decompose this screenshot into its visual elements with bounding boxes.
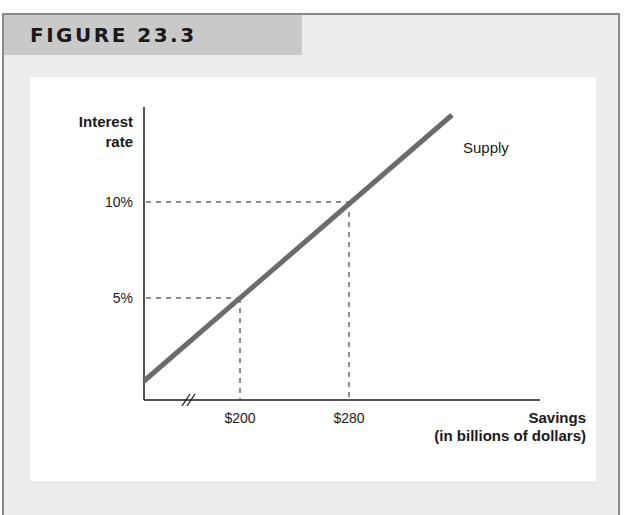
x-axis-label-line2: (in billions of dollars) <box>434 427 586 444</box>
x-axis-label-line1: Savings <box>528 409 586 426</box>
y-axis-label-line1: Interest <box>79 113 133 130</box>
y-tick-5pct: 5% <box>113 290 133 306</box>
x-tick-280: $280 <box>333 410 364 426</box>
figure-title: FIGURE 23.3 <box>30 23 197 47</box>
supply-label: Supply <box>463 139 509 156</box>
y-axis-label-line2: rate <box>105 133 133 150</box>
x-tick-200: $200 <box>224 410 255 426</box>
supply-curve <box>144 115 452 381</box>
figure-title-bar: FIGURE 23.3 <box>4 15 302 55</box>
y-tick-10pct: 10% <box>105 194 133 210</box>
supply-chart: Interest rate 10% 5% $200 $280 Savings (… <box>30 77 596 481</box>
chart-panel: Interest rate 10% 5% $200 $280 Savings (… <box>30 77 596 481</box>
figure-frame: FIGURE 23.3 Interest rate <box>2 13 620 515</box>
